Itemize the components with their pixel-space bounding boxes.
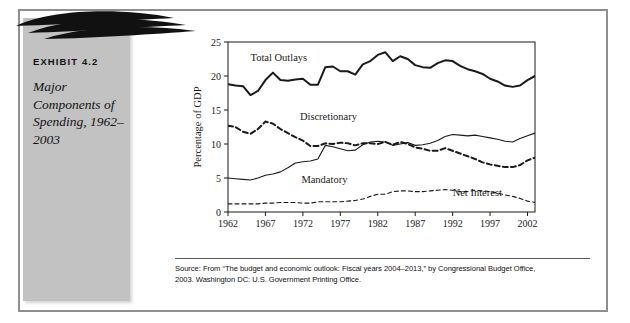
decorative-swoosh-icon: [14, 6, 214, 44]
source-note-line-1: Source: From “The budget and economic ou…: [175, 264, 595, 275]
y-axis-tick-label: 10: [211, 139, 221, 150]
x-axis-tick-label: 1962: [218, 218, 238, 229]
y-axis-tick-label: 0: [216, 207, 221, 218]
y-axis-tick-label: 25: [211, 37, 221, 48]
y-axis-tick-label: 5: [216, 173, 221, 184]
source-divider: [175, 258, 590, 259]
exhibit-label: EXHIBIT 4.2: [33, 56, 125, 67]
y-axis-tick-label: 20: [211, 71, 221, 82]
y-axis-tick-label: 15: [211, 105, 221, 116]
source-note: Source: From “The budget and economic ou…: [175, 264, 595, 285]
source-note-line-2: 2003. Washington DC: U.S. Government Pri…: [175, 275, 595, 286]
series-annotation: Net Interest: [453, 187, 502, 198]
exhibit-figure: EXHIBIT 4.2 Major Components of Spending…: [0, 0, 630, 323]
series-annotation: Discretionary: [300, 111, 358, 122]
chart-container: 0510152025196219671972197719821987199219…: [190, 30, 560, 230]
y-axis-label: Percentage of GDP: [192, 86, 203, 167]
exhibit-title: Major Components of Spending, 1962–2003: [33, 78, 128, 148]
series-annotation: Mandatory: [301, 174, 348, 185]
x-axis-tick-label: 2002: [518, 218, 538, 229]
x-axis-tick-label: 1972: [293, 218, 313, 229]
x-axis-tick-label: 1997: [480, 218, 500, 229]
x-axis-tick-label: 1967: [255, 218, 275, 229]
x-axis-tick-label: 1992: [443, 218, 463, 229]
series-line-mandatory: [228, 133, 535, 180]
series-group: [228, 52, 535, 204]
series-annotation: Total Outlays: [250, 52, 307, 63]
series-line-discretionary: [228, 122, 535, 168]
x-axis-tick-label: 1977: [330, 218, 350, 229]
x-axis-tick-label: 1987: [405, 218, 425, 229]
x-axis-tick-label: 1982: [368, 218, 388, 229]
line-chart: 0510152025196219671972197719821987199219…: [190, 30, 560, 230]
